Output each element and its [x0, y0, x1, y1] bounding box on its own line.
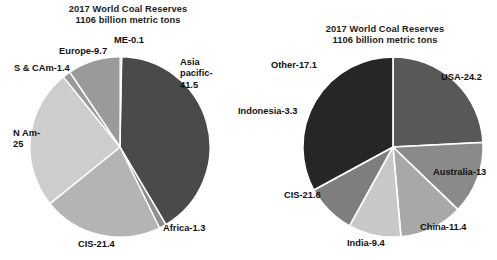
chart-title-right: 2017 World Coal Reserves 1106 billion me…	[305, 24, 465, 47]
label-me: ME-0.1	[114, 35, 144, 46]
chart-title-right-line2: 1106 billion metric tons	[305, 35, 465, 46]
slice-usa[interactable]	[393, 57, 483, 147]
label-australia: Australia-13	[433, 167, 486, 178]
label-asia-pacific-line3: 41.5	[180, 80, 198, 90]
label-asia-pacific-line1: Asia	[180, 57, 200, 67]
chart-title-left-line1: 2017 World Coal Reserves	[48, 4, 208, 15]
label-india: India-9.4	[347, 238, 385, 249]
label-n-am: N Am- 25	[13, 128, 53, 151]
label-cis-right: CIS-21.6	[284, 190, 321, 201]
label-cis-left: CIS-21.4	[78, 239, 115, 250]
label-s-cam: S & CAm-1.4	[14, 63, 70, 74]
label-usa: USA-24.2	[441, 72, 482, 83]
label-asia-pacific: Asia pacific- 41.5	[180, 57, 226, 91]
chart-title-left: 2017 World Coal Reserves 1106 billion me…	[48, 4, 208, 27]
pie-chart-by-country: 2017 World Coal Reserves 1106 billion me…	[247, 0, 497, 260]
chart-title-left-line2: 1106 billion metric tons	[48, 15, 208, 26]
label-africa: Africa-1.3	[163, 223, 205, 234]
label-asia-pacific-line2: pacific-	[180, 68, 213, 78]
label-n-am-line2: 25	[13, 139, 23, 149]
label-n-am-line1: N Am-	[13, 128, 40, 138]
label-china: China-11.4	[420, 222, 467, 233]
label-europe: Europe-9.7	[59, 46, 107, 57]
pie-chart-by-region: 2017 World Coal Reserves 1106 billion me…	[0, 0, 250, 260]
label-other: Other-17.1	[271, 60, 317, 71]
label-indonesia: Indonesia-3.3	[238, 106, 297, 117]
coal-reserves-figure: 2017 World Coal Reserves 1106 billion me…	[0, 0, 497, 260]
chart-title-right-line1: 2017 World Coal Reserves	[305, 24, 465, 35]
